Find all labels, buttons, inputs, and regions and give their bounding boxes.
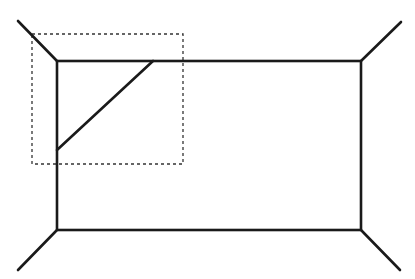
main-rectangle xyxy=(57,61,361,230)
diagonal-cut-line xyxy=(57,61,153,150)
corner-line-bottom-left xyxy=(18,230,57,270)
corner-line-top-right xyxy=(361,22,401,61)
corner-line-top-left xyxy=(18,21,57,61)
corner-line-bottom-right xyxy=(361,230,400,270)
dashed-highlight-box xyxy=(32,34,183,164)
diagram-canvas xyxy=(0,0,415,279)
